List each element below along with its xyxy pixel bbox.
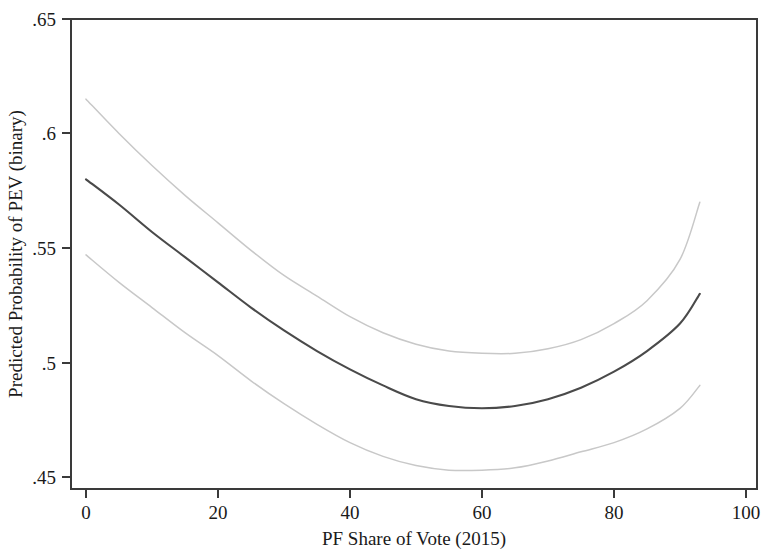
y-tick-label-45: .45 bbox=[32, 467, 56, 488]
upper-confidence-band-line bbox=[86, 99, 700, 354]
x-tick-label-60: 60 bbox=[473, 502, 492, 523]
y-axis-tick-labels: .65 .6 .55 .5 .45 bbox=[32, 9, 56, 488]
chart-figure: .65 .6 .55 .5 .45 0 20 40 60 80 100 PF S… bbox=[0, 0, 768, 555]
plot-frame bbox=[71, 19, 757, 489]
plot-border bbox=[71, 19, 757, 489]
lower-confidence-band-line bbox=[86, 255, 700, 471]
y-tick-label-50: .5 bbox=[42, 353, 56, 374]
data-series-group bbox=[86, 99, 700, 470]
y-tick-label-55: .55 bbox=[32, 238, 56, 259]
x-tick-label-40: 40 bbox=[341, 502, 360, 523]
x-axis-title: PF Share of Vote (2015) bbox=[322, 528, 506, 550]
y-tick-label-60: .6 bbox=[42, 123, 56, 144]
x-tick-label-80: 80 bbox=[605, 502, 624, 523]
x-axis-ticks bbox=[86, 489, 746, 498]
predicted-probability-line-chart: .65 .6 .55 .5 .45 0 20 40 60 80 100 PF S… bbox=[0, 0, 768, 555]
x-tick-label-100: 100 bbox=[732, 502, 761, 523]
y-axis-title: Predicted Probability of PEV (binary) bbox=[5, 110, 27, 398]
y-tick-label-65: .65 bbox=[32, 9, 56, 30]
x-tick-label-0: 0 bbox=[81, 502, 91, 523]
y-axis-ticks bbox=[62, 19, 71, 477]
x-axis-tick-labels: 0 20 40 60 80 100 bbox=[81, 502, 760, 523]
predicted-probability-line bbox=[86, 179, 700, 408]
x-tick-label-20: 20 bbox=[209, 502, 228, 523]
